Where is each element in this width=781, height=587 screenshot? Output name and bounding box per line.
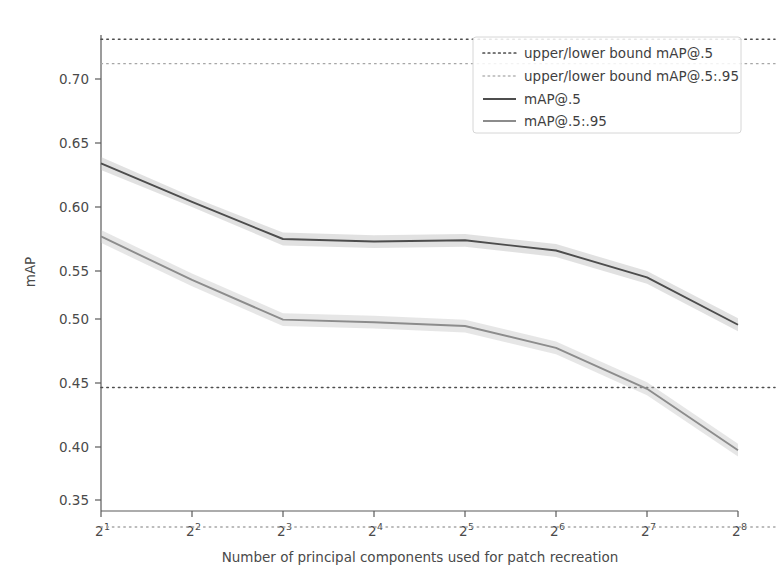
x-tick-base: 2: [277, 523, 286, 539]
legend-label-map5095: mAP@.5:.95: [524, 113, 607, 129]
y-tick-label-060: 0.60: [59, 199, 89, 215]
y-tick-label-055: 0.55: [59, 263, 89, 279]
chart-svg: 0.70 0.65 0.60 0.55 0.50 0.45 0.40 0.35 …: [0, 0, 781, 587]
x-tick-base: 2: [641, 523, 650, 539]
chart-figure: 0.70 0.65 0.60 0.55 0.50 0.45 0.40 0.35 …: [0, 0, 781, 587]
y-tick-label-050: 0.50: [59, 311, 89, 327]
y-tick-label-035: 0.35: [59, 492, 89, 508]
legend-label-upper-lower-bound-map50: upper/lower bound mAP@.5: [524, 45, 713, 61]
x-tick-base: 2: [550, 523, 559, 539]
y-tick-label-045: 0.45: [59, 375, 89, 391]
x-tick-base: 2: [186, 523, 195, 539]
y-tick-label-065: 0.65: [59, 135, 89, 151]
y-tick-label-070: 0.70: [59, 71, 89, 87]
legend-label-upper-lower-bound-map5095: upper/lower bound mAP@.5:.95: [524, 68, 739, 84]
x-tick-base: 2: [95, 523, 104, 539]
x-tick-base: 2: [732, 523, 741, 539]
x-axis-title: Number of principal components used for …: [222, 549, 619, 565]
legend-label-map50: mAP@.5: [524, 91, 581, 107]
x-tick-base: 2: [459, 523, 468, 539]
x-tick-base: 2: [368, 523, 377, 539]
y-axis-title: mAP: [22, 257, 38, 288]
y-tick-label-040: 0.40: [59, 439, 89, 455]
